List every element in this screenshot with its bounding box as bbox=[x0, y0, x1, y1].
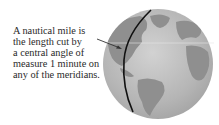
globe-icon bbox=[103, 9, 214, 119]
globe-figure bbox=[0, 0, 219, 125]
